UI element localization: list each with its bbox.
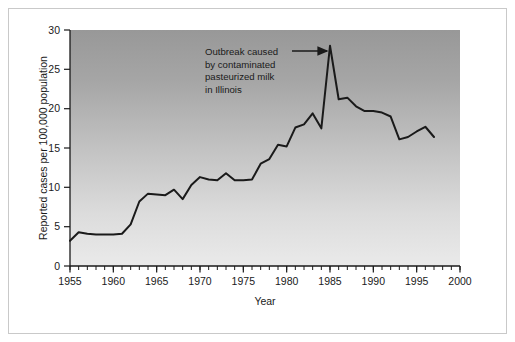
salmonellosis-line-chart: 0 5 10 15 20 25 30 1955 1960 1965 1970 1… [0,0,515,342]
x-axis-major-ticks [70,266,460,273]
x-tick-label: 1965 [145,275,169,287]
annotation-line-4: in Illinois [205,84,242,95]
annotation-line-3: pasteurized milk [205,71,275,82]
x-axis-tick-labels: 1955 1960 1965 1970 1975 1980 1985 1990 … [58,275,472,287]
y-axis-tick-labels: 0 5 10 15 20 25 30 [48,24,60,272]
x-tick-label: 1975 [232,275,256,287]
x-tick-label: 1995 [405,275,429,287]
x-tick-label: 1960 [102,275,126,287]
y-tick-label: 5 [54,220,60,232]
figure-root: 0 5 10 15 20 25 30 1955 1960 1965 1970 1… [0,0,515,342]
y-tick-label: 10 [48,181,60,193]
annotation-line-1: Outbreak caused [205,46,278,57]
y-tick-label: 0 [54,260,60,272]
x-tick-label: 1990 [362,275,386,287]
y-tick-label: 25 [48,63,60,75]
x-axis-title: Year [254,295,276,307]
y-tick-label: 15 [48,142,60,154]
y-axis-ticks [64,30,70,266]
x-tick-label: 1955 [58,275,82,287]
y-tick-label: 30 [48,24,60,36]
x-tick-label: 1980 [275,275,299,287]
x-tick-label: 1985 [318,275,342,287]
x-tick-label: 1970 [188,275,212,287]
y-tick-label: 20 [48,102,60,114]
x-tick-label: 2000 [448,275,472,287]
y-axis-title: Reported cases per 100,000 population [37,56,49,240]
annotation-line-2: by contaminated [205,59,275,70]
